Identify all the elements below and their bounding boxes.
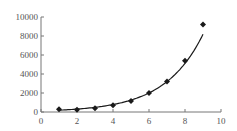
x-tick-label: 0 bbox=[39, 116, 44, 126]
diamond-marker bbox=[182, 58, 188, 64]
x-tick-label: 4 bbox=[111, 116, 116, 126]
diamond-marker bbox=[200, 22, 206, 28]
y-tick-label: 2000 bbox=[20, 88, 39, 98]
diamond-marker bbox=[110, 102, 116, 108]
chart: 02468100200040006000800010000 bbox=[0, 0, 237, 131]
y-tick-label: 4000 bbox=[20, 69, 39, 79]
axes: 02468100200040006000800010000 bbox=[16, 12, 227, 126]
diamond-marker bbox=[92, 105, 98, 111]
x-tick-label: 10 bbox=[217, 116, 227, 126]
data-points bbox=[56, 22, 206, 113]
diamond-marker bbox=[146, 90, 152, 96]
y-tick-label: 8000 bbox=[20, 31, 39, 41]
y-tick-label: 10000 bbox=[16, 12, 39, 22]
x-tick-label: 6 bbox=[147, 116, 152, 126]
y-tick-label: 0 bbox=[34, 107, 39, 117]
diamond-marker bbox=[56, 106, 62, 112]
x-tick-label: 8 bbox=[183, 116, 188, 126]
y-tick-label: 6000 bbox=[20, 50, 39, 60]
x-tick-label: 2 bbox=[75, 116, 80, 126]
